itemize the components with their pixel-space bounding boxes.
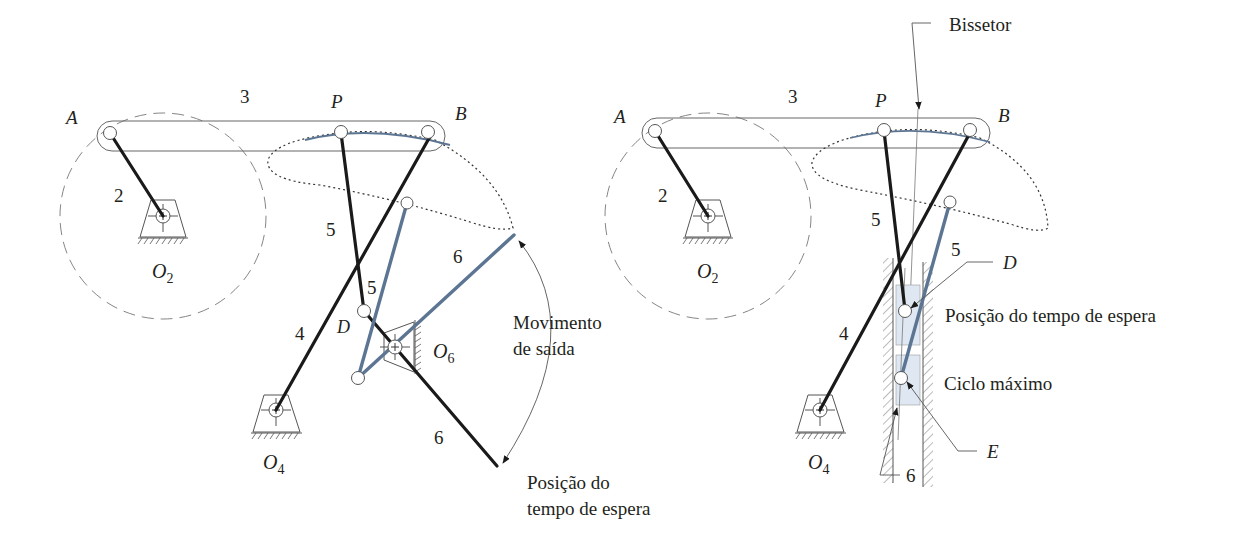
coupler-curve-left	[268, 132, 513, 230]
pin-blue-top-right	[944, 196, 956, 208]
label-link4-left: 4	[295, 323, 305, 344]
link-4-right	[820, 131, 971, 410]
pin-P-right	[878, 124, 891, 137]
label-bisector: Bissetor	[949, 14, 1012, 35]
pin-blue-bottom-left	[352, 372, 365, 385]
pin-D-left	[358, 305, 371, 318]
bisector-leader	[912, 23, 931, 109]
pin-A-left	[104, 127, 117, 140]
linkage-diagram: A 3 P B 2 O2 5 5 6 4 D O6 6 O4 Movimento…	[0, 0, 1255, 549]
label-max-cycle: Ciclo máximo	[944, 373, 1052, 394]
ground-pivot-O2-right	[683, 200, 733, 244]
label-link5-blue-left: 5	[367, 277, 377, 298]
label-dwell-position-right: Posição do tempo de espera	[945, 305, 1157, 326]
label-output-motion-2: de saída	[513, 338, 575, 359]
ground-pivot-O2	[138, 200, 188, 244]
label-output-motion-1: Movimento	[513, 312, 602, 333]
label-link4-right: 4	[839, 323, 849, 344]
pin-D-right	[899, 305, 912, 318]
label-link5-black-right: 5	[871, 209, 881, 230]
bisector-line	[910, 109, 918, 305]
label-O4-left: O4	[263, 451, 284, 477]
label-link3-left: 3	[240, 86, 250, 107]
link-5-black-left	[341, 133, 364, 311]
coupler-link-3-left	[97, 121, 445, 151]
coupler-curve-right	[812, 130, 1048, 231]
label-O4-right: O4	[808, 451, 829, 477]
label-D-left: D	[336, 317, 350, 337]
label-B-left: B	[455, 103, 467, 124]
pin-A-right	[649, 125, 662, 138]
link-6-black-left	[364, 311, 497, 466]
label-B-right: B	[998, 105, 1010, 126]
label-link3-right: 3	[788, 86, 798, 107]
label-A-right: A	[612, 106, 626, 127]
label-link5-blue-right: 5	[951, 239, 961, 260]
label-link2-left: 2	[114, 185, 124, 206]
label-dwell-position-1: Posição do	[527, 472, 610, 493]
left-panel: A 3 P B 2 O2 5 5 6 4 D O6 6 O4 Movimento…	[60, 86, 651, 519]
right-panel: Bissetor A 3 P B 2 O2 5 5 4 D Posição do…	[605, 14, 1157, 487]
label-link5-black-left: 5	[326, 219, 336, 240]
label-link6-blue-left: 6	[453, 246, 463, 267]
pin-P-left	[335, 126, 348, 139]
pin-B-left	[422, 126, 435, 139]
label-link6-right: 6	[906, 465, 916, 486]
pin-blue-top-left	[401, 197, 413, 209]
label-link6-black-left: 6	[434, 427, 444, 448]
ground-pivot-O4	[251, 395, 302, 439]
label-O6: O6	[433, 340, 454, 366]
ground-pivot-O4-right	[795, 395, 846, 439]
label-O2-right: O2	[697, 260, 718, 286]
label-link2-right: 2	[658, 185, 668, 206]
pin-B-right	[964, 124, 977, 137]
label-A-left: A	[64, 107, 78, 128]
label-O2-left: O2	[152, 260, 173, 286]
label-D-right: D	[1002, 252, 1017, 273]
label-P-left: P	[330, 91, 343, 112]
label-P-right: P	[874, 90, 887, 111]
label-dwell-position-2: tempo de espera	[527, 498, 651, 519]
label-E: E	[986, 441, 999, 462]
pin-E-right	[895, 372, 908, 385]
